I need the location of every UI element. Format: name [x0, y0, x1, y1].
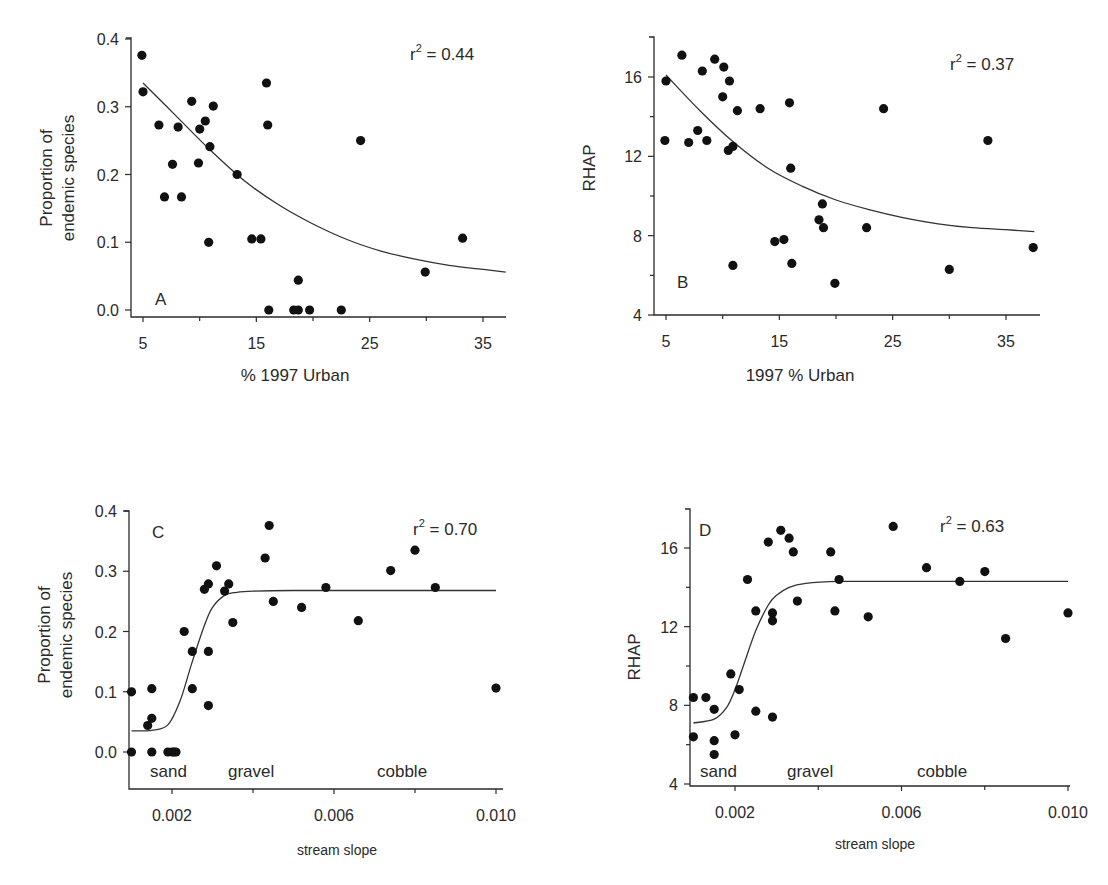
axes-frame — [126, 38, 506, 317]
data-point — [698, 66, 707, 75]
data-point — [321, 583, 330, 592]
substrate-label-cobble: cobble — [917, 762, 967, 781]
figure-four-panel-scatter: 0.00.10.20.30.45152535 Proportion of end… — [0, 0, 1108, 885]
x-axis-label: stream slope — [297, 842, 377, 858]
data-point — [710, 750, 719, 759]
data-point — [264, 305, 273, 314]
data-point — [138, 87, 147, 96]
data-point — [205, 142, 214, 151]
y-tick-label: 8 — [633, 228, 642, 245]
data-point — [177, 192, 186, 201]
data-point — [768, 713, 777, 722]
r-squared-annotation: r2 = 0.70 — [413, 517, 477, 539]
x-tick-label: 5 — [139, 335, 148, 352]
data-point — [793, 597, 802, 606]
data-point — [733, 106, 742, 115]
data-point — [195, 125, 204, 134]
data-point — [677, 51, 686, 60]
data-point — [263, 120, 272, 129]
data-point — [261, 553, 270, 562]
data-point — [743, 575, 752, 584]
data-point — [710, 705, 719, 714]
data-point — [776, 526, 785, 535]
y-tick-label: 0.2 — [97, 167, 119, 184]
panel-b: 4812165152535 RHAP 1997 % Urban B r2 = 0… — [580, 37, 1040, 385]
data-point — [147, 747, 156, 756]
panel-a: 0.00.10.20.30.45152535 Proportion of end… — [37, 31, 506, 385]
y-axis-label-line2: endemic species — [59, 115, 78, 242]
y-axis-label-line2: endemic species — [57, 572, 76, 699]
data-point — [864, 612, 873, 621]
panel-c: 0.00.10.20.30.40.0020.0060.010 Proportio… — [35, 503, 516, 858]
data-point — [354, 616, 363, 625]
y-tick-label: 0.1 — [97, 234, 119, 251]
data-point — [719, 63, 728, 72]
y-tick-label: 12 — [660, 619, 678, 636]
y-tick-label: 8 — [669, 697, 678, 714]
axes-frame — [124, 511, 503, 789]
y-tick-label: 4 — [669, 776, 678, 793]
data-point — [735, 685, 744, 694]
panel-letter: B — [677, 273, 688, 292]
axes-frame — [685, 509, 1070, 786]
data-point — [171, 747, 180, 756]
r-squared-annotation: r2 = 0.63 — [940, 514, 1004, 536]
y-tick-label: 0.4 — [95, 503, 117, 520]
data-point — [730, 730, 739, 739]
y-axis-label: RHAP — [625, 633, 644, 680]
substrate-label-cobble: cobble — [377, 762, 427, 781]
data-point — [386, 566, 395, 575]
data-point — [789, 547, 798, 556]
data-point — [127, 687, 136, 696]
data-point — [814, 215, 823, 224]
r-squared-annotation: r2 = 0.37 — [950, 52, 1014, 74]
data-point — [262, 78, 271, 87]
x-tick-label: 5 — [662, 333, 671, 350]
data-point — [768, 616, 777, 625]
data-point — [786, 164, 795, 173]
data-point — [147, 684, 156, 693]
data-point — [265, 521, 274, 530]
panel-letter: C — [152, 523, 164, 542]
y-tick-label: 12 — [624, 148, 642, 165]
data-point — [756, 104, 765, 113]
data-point — [491, 684, 500, 693]
y-tick-label: 0.1 — [95, 684, 117, 701]
data-point — [204, 579, 213, 588]
data-point — [337, 305, 346, 314]
fitted-curve — [143, 83, 506, 272]
data-point — [726, 669, 735, 678]
data-point — [174, 123, 183, 132]
data-point — [710, 55, 719, 64]
data-point — [201, 116, 210, 125]
chart-canvas: 0.00.10.20.30.45152535 Proportion of end… — [0, 0, 1108, 885]
axes-frame — [649, 37, 1040, 315]
data-point — [751, 707, 760, 716]
data-point — [247, 234, 256, 243]
x-tick-label: 0.002 — [715, 804, 755, 821]
x-tick-label: 35 — [997, 333, 1015, 350]
data-point — [180, 627, 189, 636]
data-point — [160, 192, 169, 201]
r-squared-annotation: r2 = 0.44 — [410, 42, 474, 64]
data-point — [684, 138, 693, 147]
substrate-label-sand: sand — [700, 762, 737, 781]
data-point — [818, 199, 827, 208]
data-point — [256, 234, 265, 243]
fitted-curve — [132, 590, 497, 730]
data-point — [689, 693, 698, 702]
data-point — [1063, 608, 1072, 617]
data-point — [204, 238, 213, 247]
data-point — [127, 747, 136, 756]
data-point — [785, 534, 794, 543]
data-point — [835, 575, 844, 584]
y-tick-label: 4 — [633, 307, 642, 324]
data-point — [751, 606, 760, 615]
data-point — [187, 97, 196, 106]
data-point — [204, 701, 213, 710]
data-point — [819, 223, 828, 232]
data-point — [458, 234, 467, 243]
x-axis-label: stream slope — [835, 836, 915, 852]
data-point — [980, 567, 989, 576]
data-point — [1001, 634, 1010, 643]
